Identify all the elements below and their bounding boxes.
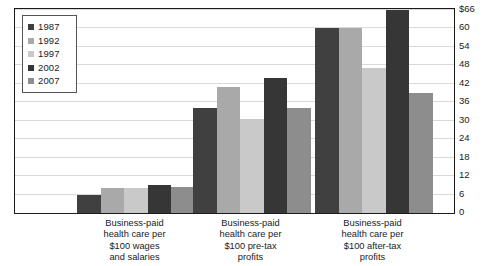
category-label-line: Business-paid (318, 218, 428, 229)
legend-item[interactable]: 2002 (28, 62, 72, 74)
category-label: Business-paidhealth care per$100 pre-tax… (196, 218, 306, 263)
bar (315, 28, 339, 213)
chart-figure: $6660544842363024181260 1987199219972002… (0, 0, 492, 266)
bar (409, 93, 433, 213)
legend-item[interactable]: 1992 (28, 35, 72, 47)
bar (362, 68, 386, 213)
category-label-line: profits (196, 252, 306, 263)
legend-swatch-icon (28, 24, 34, 30)
y-axis-tick-label: 30 (459, 115, 470, 125)
category-label-line: and salaries (80, 252, 190, 263)
category-label-line: $100 pre-tax (196, 241, 306, 252)
y-axis-tick-label: 0 (459, 207, 464, 217)
y-axis-tick-label: 60 (459, 22, 470, 32)
y-axis-tick-label: $66 (459, 4, 475, 14)
y-axis-tick-label: 36 (459, 96, 470, 106)
legend-item[interactable]: 2007 (28, 75, 72, 87)
bar-group (15, 9, 453, 213)
legend-swatch-icon (28, 51, 34, 57)
category-label: Business-paidhealth care per$100 after-t… (318, 218, 428, 263)
y-axis-tick-label: 24 (459, 133, 470, 143)
legend-item-label: 1997 (38, 49, 60, 59)
y-axis-tick-label: 42 (459, 78, 470, 88)
category-label-line: Business-paid (80, 218, 190, 229)
legend-item[interactable]: 1987 (28, 21, 72, 33)
legend-swatch-icon (28, 38, 34, 44)
legend-swatch-icon (28, 65, 34, 71)
y-axis-labels: $6660544842363024181260 (459, 8, 492, 214)
category-label-line: profits (318, 252, 428, 263)
category-label-line: health care per (196, 229, 306, 240)
legend-item-label: 2007 (38, 76, 60, 86)
bar (386, 10, 410, 213)
category-label-line: $100 wages (80, 241, 190, 252)
category-label-line: $100 after-tax (318, 241, 428, 252)
legend-item[interactable]: 1997 (28, 48, 72, 60)
plot-area (14, 8, 455, 214)
y-axis-tick-label: 48 (459, 59, 470, 69)
bars-layer (15, 9, 454, 213)
bar (339, 28, 363, 213)
y-axis-tick-label: 54 (459, 41, 470, 51)
y-axis-tick-label: 12 (459, 170, 470, 180)
category-label-line: health care per (318, 229, 428, 240)
legend-item-label: 2002 (38, 63, 60, 73)
legend: 19871992199720022007 (22, 15, 77, 93)
category-label-line: health care per (80, 229, 190, 240)
legend-item-label: 1992 (38, 36, 60, 46)
cropped-edge (0, 0, 492, 5)
category-label-line: Business-paid (196, 218, 306, 229)
legend-swatch-icon (28, 78, 34, 84)
category-axis-labels: Business-paidhealth care per$100 wagesan… (14, 216, 455, 266)
y-axis-tick-label: 18 (459, 152, 470, 162)
y-axis-tick-label: 6 (459, 189, 464, 199)
legend-item-label: 1987 (38, 22, 60, 32)
category-label: Business-paidhealth care per$100 wagesan… (80, 218, 190, 263)
